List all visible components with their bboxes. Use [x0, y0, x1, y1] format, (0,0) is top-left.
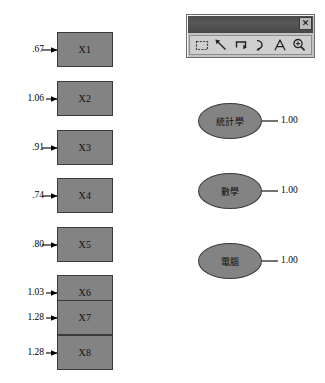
- latent-ellipse-statistics[interactable]: 統計學: [198, 103, 262, 139]
- zoom-tool-icon[interactable]: [290, 36, 310, 54]
- loading-connectors: [262, 121, 278, 261]
- error-variance-x1: .67: [14, 44, 44, 54]
- error-variance-x7: 1.28: [14, 312, 44, 322]
- loading-value-statistics: 1.00: [281, 115, 298, 125]
- drawing-toolbar[interactable]: ✕: [186, 14, 315, 58]
- toolbar-titlebar[interactable]: [188, 16, 313, 33]
- latent-ellipse-computer[interactable]: 電腦: [198, 243, 262, 279]
- polyline-tool-icon[interactable]: [231, 36, 251, 54]
- close-icon[interactable]: ✕: [299, 17, 312, 30]
- error-variance-x8: 1.28: [14, 347, 44, 357]
- loading-value-mathematics: 1.00: [281, 185, 298, 195]
- observed-box-x4[interactable]: X4: [57, 178, 113, 213]
- error-variance-x4: .74: [14, 190, 44, 200]
- latent-ellipse-mathematics[interactable]: 數學: [198, 173, 262, 209]
- error-variance-x5: .80: [14, 239, 44, 249]
- error-variance-x3: .91: [14, 142, 44, 152]
- error-variance-x2: 1.06: [14, 93, 44, 103]
- loading-value-computer: 1.00: [281, 255, 298, 265]
- curve-tool-icon[interactable]: [251, 36, 271, 54]
- observed-box-x8[interactable]: X8: [57, 335, 113, 370]
- observed-box-x3[interactable]: X3: [57, 130, 113, 165]
- error-variance-x6: 1.03: [14, 287, 44, 297]
- error-connectors: [42, 50, 57, 353]
- observed-box-x5[interactable]: X5: [57, 227, 113, 262]
- rectangle-tool-icon[interactable]: [192, 36, 212, 54]
- observed-box-x2[interactable]: X2: [57, 81, 113, 116]
- toolbar-tool-row: [189, 35, 312, 55]
- observed-box-x1[interactable]: X1: [57, 32, 113, 67]
- line-tool-icon[interactable]: [212, 36, 232, 54]
- observed-box-x7[interactable]: X7: [57, 300, 113, 335]
- text-tool-icon[interactable]: [270, 36, 290, 54]
